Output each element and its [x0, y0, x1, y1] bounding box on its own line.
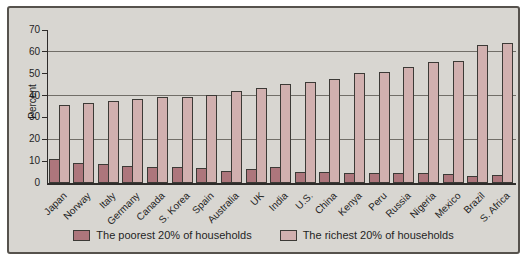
- legend-label-richest: The richest 20% of households: [303, 229, 454, 241]
- bar-richest-spain: [206, 95, 217, 183]
- legend-item-poorest: The poorest 20% of households: [73, 229, 251, 241]
- ytick-label-40: 40: [12, 91, 40, 101]
- bar-richest-peru: [379, 72, 390, 183]
- bar-richest-canada: [157, 97, 168, 183]
- chart-plot: 010203040506070JapanNorwayItalyGermanyCa…: [47, 30, 516, 185]
- ytick-label-20: 20: [12, 134, 40, 144]
- legend-swatch-poorest: [73, 230, 90, 241]
- ytick-40: [42, 95, 48, 96]
- ytick-70: [42, 30, 48, 31]
- bar-richest-norway: [83, 103, 94, 183]
- gridline-60: [48, 51, 516, 52]
- bar-richest-s-korea: [182, 97, 193, 183]
- figure-box: Percent 010203040506070JapanNorwayItalyG…: [7, 6, 520, 254]
- bar-richest-s-africa: [502, 43, 513, 183]
- ytick-50: [42, 73, 48, 74]
- legend-item-richest: The richest 20% of households: [280, 229, 454, 241]
- legend-swatch-richest: [280, 230, 297, 241]
- ytick-label-0: 0: [12, 178, 40, 188]
- bar-richest-kenya: [354, 73, 365, 183]
- ytick-30: [42, 117, 48, 118]
- ytick-label-30: 30: [12, 112, 40, 122]
- bar-richest-india: [280, 84, 291, 183]
- bar-richest-japan: [59, 105, 70, 183]
- ytick-label-10: 10: [12, 156, 40, 166]
- bar-richest-mexico: [453, 61, 464, 183]
- ytick-label-50: 50: [12, 69, 40, 79]
- bar-richest-u-s: [305, 82, 316, 183]
- ytick-10: [42, 161, 48, 162]
- bar-richest-brazil: [477, 45, 488, 183]
- bar-richest-uk: [256, 88, 267, 183]
- bar-richest-germany: [132, 99, 143, 183]
- bar-richest-russia: [403, 67, 414, 183]
- ytick-label-60: 60: [12, 47, 40, 57]
- legend-label-poorest: The poorest 20% of households: [96, 229, 251, 241]
- bar-richest-nigeria: [428, 62, 439, 183]
- ytick-60: [42, 51, 48, 52]
- bar-richest-australia: [231, 91, 242, 183]
- bar-richest-italy: [108, 101, 119, 183]
- ytick-20: [42, 139, 48, 140]
- legend: The poorest 20% of households The riches…: [9, 229, 518, 241]
- bar-richest-china: [329, 79, 340, 183]
- ytick-label-70: 70: [12, 25, 40, 35]
